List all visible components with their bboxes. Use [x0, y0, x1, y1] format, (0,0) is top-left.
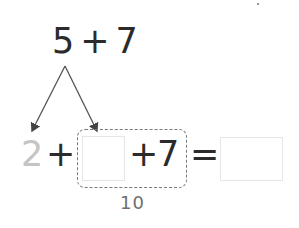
group-sum-label: 10	[120, 192, 145, 213]
stray-dot	[257, 3, 259, 5]
plus-sign-1: +	[46, 137, 75, 172]
top-operator: +	[80, 24, 109, 59]
decomposition-arrows	[0, 0, 299, 228]
blank-term-box[interactable]	[82, 136, 125, 181]
equals-sign: =	[190, 137, 219, 172]
plus-sign-2: +	[129, 137, 158, 172]
second-term: 7	[157, 137, 179, 172]
arrow-left	[32, 66, 65, 131]
first-term: 2	[21, 137, 43, 172]
top-left-operand: 5	[52, 24, 74, 59]
top-expression: 5+7	[52, 24, 138, 59]
arrow-right	[65, 66, 97, 131]
answer-box[interactable]	[220, 137, 283, 181]
top-right-operand: 7	[116, 24, 138, 59]
